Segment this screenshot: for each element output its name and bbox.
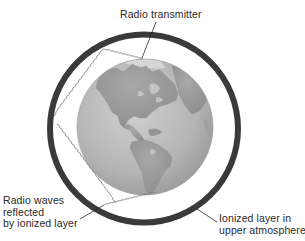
- radio-transmitter-text: Radio transmitter: [120, 9, 202, 21]
- radio-waves-label: Radio waves reflected by ionized layer: [3, 195, 78, 230]
- radio-waves-line1: Radio waves: [3, 195, 78, 207]
- earth-globe: [77, 58, 214, 195]
- transmitter-leader-line: [142, 22, 156, 58]
- ionized-layer-line2: upper atmosphere: [219, 225, 305, 237]
- radio-waves-line3: by ionized layer: [3, 218, 78, 230]
- ionized-leader-line: [197, 209, 217, 222]
- radio-transmitter-label: Radio transmitter: [120, 9, 202, 21]
- ionized-layer-line1: Ionized layer in: [219, 213, 305, 225]
- ionized-layer-label: Ionized layer in upper atmosphere: [219, 213, 305, 236]
